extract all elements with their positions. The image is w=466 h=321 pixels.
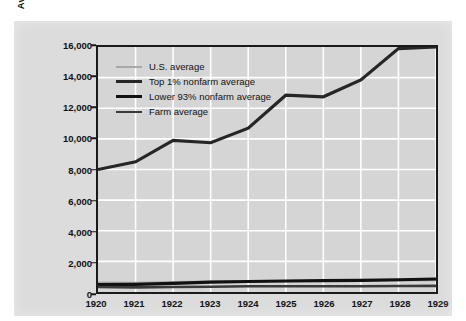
legend-item-0: U.S. average	[116, 59, 271, 74]
y-tick-label: 10,000	[42, 133, 92, 144]
legend-label-3: Farm average	[149, 106, 208, 117]
y-tick-label: 16,000	[42, 40, 92, 51]
y-axis-title-line1: Average Real per Capita Disposable Incom…	[16, 0, 26, 33]
y-tick-label: 8,000	[42, 164, 92, 175]
y-tick-label: 2,000	[42, 257, 92, 268]
y-tick-label: 12,000	[42, 102, 92, 113]
x-tick-label: 1928	[380, 298, 420, 309]
chart-legend: U.S. averageTop 1% nonfarm averageLower …	[116, 59, 271, 119]
legend-item-3: Farm average	[116, 104, 271, 119]
legend-label-2: Lower 93% nonfarm average	[149, 91, 271, 102]
legend-label-0: U.S. average	[149, 61, 204, 72]
legend-swatch-0	[116, 66, 142, 68]
x-tick-label: 1929	[418, 298, 458, 309]
x-tick-label: 1923	[190, 298, 230, 309]
legend-swatch-1	[116, 80, 142, 83]
x-tick-label: 1922	[152, 298, 192, 309]
plot-area: U.S. averageTop 1% nonfarm averageLower …	[96, 45, 438, 294]
y-tick-label: 14,000	[42, 71, 92, 82]
x-tick-label: 1920	[76, 298, 116, 309]
chart-figure: Average Real per Capita Disposable Incom…	[14, 21, 452, 316]
x-tick-label: 1921	[114, 298, 154, 309]
x-tick-label: 1927	[342, 298, 382, 309]
series-line-3	[98, 286, 436, 287]
y-tick-label: 4,000	[42, 226, 92, 237]
x-tick-label: 1926	[304, 298, 344, 309]
x-tick-label: 1924	[228, 298, 268, 309]
legend-label-1: Top 1% nonfarm average	[149, 76, 255, 87]
y-tick-label: 6,000	[42, 195, 92, 206]
legend-item-1: Top 1% nonfarm average	[116, 74, 271, 89]
plot-area-wrapper: 02,0004,0006,0008,00010,00012,00014,0001…	[96, 45, 438, 294]
y-axis-title-line2: (1929 dollars)	[36, 0, 46, 33]
legend-swatch-2	[116, 95, 142, 98]
legend-item-2: Lower 93% nonfarm average	[116, 89, 271, 104]
y-axis-title: Average Real per Capita Disposable Incom…	[6, 0, 24, 33]
x-tick-label: 1925	[266, 298, 306, 309]
legend-swatch-3	[116, 111, 142, 113]
